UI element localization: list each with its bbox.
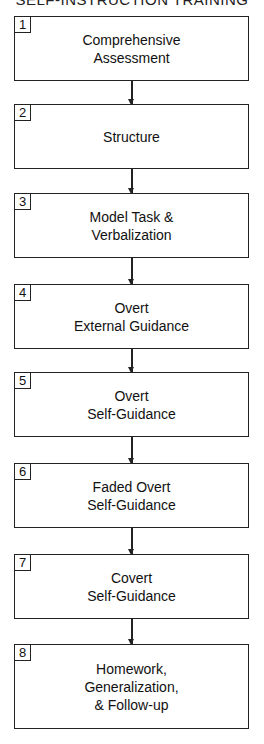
step-8-box: 8 Homework, Generalization, & Follow-up <box>14 644 249 729</box>
step-number-badge: 2 <box>15 105 31 121</box>
arrow-down-icon <box>131 349 133 372</box>
step-label: Covert Self-Guidance <box>87 569 176 605</box>
arrow-down-icon <box>131 437 133 463</box>
step-label: Homework, Generalization, & Follow-up <box>84 660 178 714</box>
arrow-down-icon <box>131 81 133 104</box>
step-number-badge: 6 <box>15 464 31 480</box>
arrow-down-icon <box>131 528 133 554</box>
step-label: Structure <box>103 128 160 146</box>
step-label: Model Task & Verbalization <box>90 208 174 244</box>
step-number-badge: 7 <box>15 555 31 571</box>
step-2-box: 2 Structure <box>14 104 249 169</box>
step-number-badge: 5 <box>15 373 31 389</box>
step-number-badge: 1 <box>15 17 31 33</box>
step-5-box: 5 Overt Self-Guidance <box>14 372 249 437</box>
step-label: Faded Overt Self-Guidance <box>87 478 176 514</box>
arrow-down-icon <box>131 169 133 193</box>
diagram-title: SELF-INSTRUCTION TRAINING <box>0 0 264 8</box>
step-number-badge: 3 <box>15 194 31 210</box>
arrow-down-icon <box>131 619 133 644</box>
arrow-down-icon <box>131 258 133 284</box>
step-number-badge: 8 <box>15 645 31 661</box>
step-7-box: 7 Covert Self-Guidance <box>14 554 249 619</box>
step-3-box: 3 Model Task & Verbalization <box>14 193 249 258</box>
step-label: Overt External Guidance <box>74 299 189 335</box>
step-label: Overt Self-Guidance <box>87 387 176 423</box>
step-number-badge: 4 <box>15 285 31 301</box>
step-6-box: 6 Faded Overt Self-Guidance <box>14 463 249 528</box>
step-label: Comprehensive Assessment <box>82 31 180 67</box>
step-4-box: 4 Overt External Guidance <box>14 284 249 349</box>
step-1-box: 1 Comprehensive Assessment <box>14 16 249 81</box>
